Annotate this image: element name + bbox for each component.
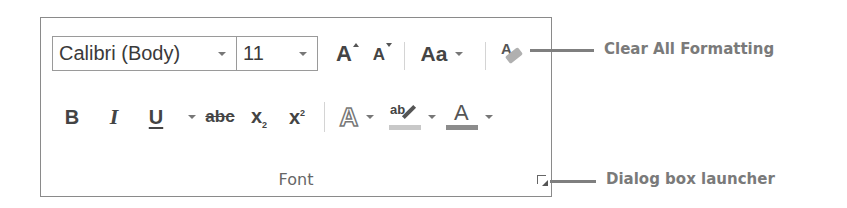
font-name-value: Calibri (Body) [53,42,218,65]
text-effects-icon: A [340,102,359,133]
highlighter-icon: ab [389,101,421,133]
grow-font-icon: A [336,41,352,67]
chevron-down-icon [188,115,196,119]
clear-formatting-button[interactable]: A [494,38,530,70]
grow-font-button[interactable]: A [329,38,359,70]
eraser-icon: A [498,40,526,68]
change-case-button[interactable]: Aa [412,38,472,70]
shrink-font-icon: A [373,45,385,65]
italic-button[interactable]: I [101,102,127,132]
separator [404,42,405,70]
chevron-down-icon [366,115,374,119]
chevron-down-icon [455,52,463,56]
subscript-button[interactable]: x2 [243,102,275,132]
underline-button[interactable]: U [143,102,169,132]
chevron-down-icon [428,115,436,119]
dialog-launcher-button[interactable] [537,175,549,187]
bold-icon: B [65,106,79,129]
font-ribbon-group: Calibri (Body) 11 A A Aa A B I U [40,17,552,197]
font-name-combo[interactable]: Calibri (Body) [52,36,237,71]
callout-line-dialog-launcher [550,180,596,183]
superscript-icon: x2 [289,106,305,129]
superscript-button[interactable]: x2 [281,102,313,132]
font-color-button[interactable]: A [445,100,479,134]
chevron-down-icon[interactable] [218,52,226,56]
strikethrough-icon: abc [205,107,234,127]
chevron-down-icon [485,115,493,119]
underline-icon: U [149,106,163,129]
strikethrough-button[interactable]: abc [203,102,237,132]
font-size-combo[interactable]: 11 [236,36,318,71]
subscript-icon: x2 [251,105,267,130]
separator [485,42,486,70]
change-case-icon: Aa [421,42,448,66]
group-label: Font [41,170,551,189]
underline-dropdown[interactable] [185,102,199,132]
chevron-down-icon[interactable] [299,52,307,56]
dialog-launcher-icon [537,175,548,186]
italic-icon: I [110,104,119,130]
font-size-value: 11 [237,42,299,65]
callout-clear-all-formatting: Clear All Formatting [604,40,774,58]
callout-dialog-box-launcher: Dialog box launcher [606,170,775,188]
text-highlight-dropdown[interactable] [424,102,440,132]
separator [324,102,325,132]
font-color-icon: A [446,101,478,133]
bold-button[interactable]: B [59,102,85,132]
font-color-dropdown[interactable] [481,102,497,132]
callout-line-clear-formatting [530,49,594,52]
text-effects-button[interactable]: A [333,100,381,134]
text-highlight-button[interactable]: ab [388,100,422,134]
shrink-font-button[interactable]: A [365,40,393,70]
